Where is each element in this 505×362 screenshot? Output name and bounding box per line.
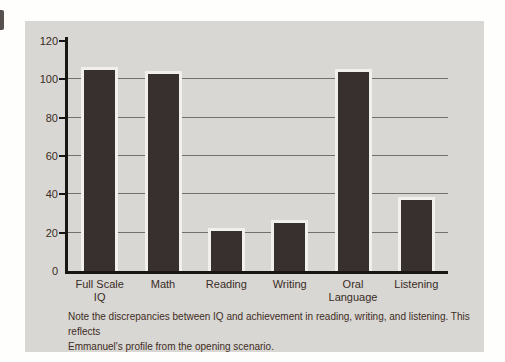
figure-note-line-1: Note the discrepancies between IQ and ac… — [68, 309, 476, 339]
bar-5 — [401, 200, 432, 271]
y-tick-40 — [59, 193, 65, 195]
x-axis-line — [65, 271, 448, 274]
page-edge-tab — [0, 10, 4, 30]
bar-4 — [338, 72, 369, 271]
plot-area: 020406080100120Full Scale IQMathReadingW… — [68, 41, 448, 271]
y-tick-20 — [59, 232, 65, 234]
y-tick-label-60: 60 — [22, 150, 58, 162]
figure-note: Note the discrepancies between IQ and ac… — [68, 309, 476, 354]
gridline-80 — [68, 117, 448, 118]
y-tick-label-20: 20 — [22, 227, 58, 239]
gridline-100 — [68, 78, 448, 79]
chart-panel: 020406080100120Full Scale IQMathReadingW… — [25, 21, 484, 352]
y-tick-label-0: 0 — [22, 265, 58, 277]
y-axis-line — [65, 37, 68, 271]
y-tick-100 — [59, 78, 65, 80]
y-tick-60 — [59, 155, 65, 157]
x-category-label-5: Listening — [376, 278, 456, 291]
figure-note-line-2: Emmanuel's profile from the opening scen… — [68, 339, 476, 354]
y-tick-label-100: 100 — [22, 73, 58, 85]
bar-3 — [274, 223, 305, 271]
gridline-60 — [68, 155, 448, 156]
gridline-20 — [68, 232, 448, 233]
gridline-40 — [68, 193, 448, 194]
y-tick-label-40: 40 — [22, 188, 58, 200]
y-tick-80 — [59, 117, 65, 119]
bar-0 — [84, 70, 115, 271]
figure-page: 020406080100120Full Scale IQMathReadingW… — [0, 0, 505, 362]
bar-1 — [148, 74, 179, 271]
y-tick-120 — [59, 40, 65, 42]
y-tick-label-120: 120 — [22, 35, 58, 47]
y-tick-label-80: 80 — [22, 112, 58, 124]
bar-2 — [211, 231, 242, 271]
